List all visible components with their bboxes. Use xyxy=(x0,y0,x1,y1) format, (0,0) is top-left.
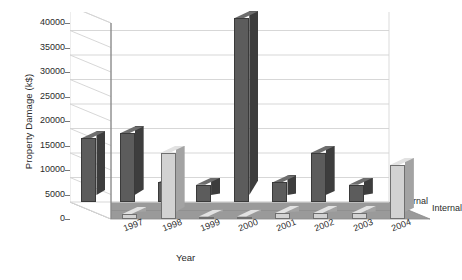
y-axis-tick-mark xyxy=(65,72,70,73)
bar-internal-1999 xyxy=(199,210,214,220)
bar-external-2001 xyxy=(234,11,249,202)
bar-front-face xyxy=(122,214,137,219)
bar-side-face xyxy=(135,126,144,195)
y-axis-tick-mark xyxy=(65,170,70,171)
bar-front-face xyxy=(275,213,290,219)
bar-front-face xyxy=(272,182,287,202)
y-axis-tick-label: 10000 xyxy=(40,165,65,174)
bar-side-face xyxy=(249,11,258,195)
bar-internal-1997 xyxy=(122,207,137,219)
y-axis-tick-mark xyxy=(65,23,70,24)
bar-front-face xyxy=(349,185,364,202)
bar-external-2003 xyxy=(311,146,326,202)
bar-front-face xyxy=(311,153,326,202)
bar-internal-2001 xyxy=(275,206,290,219)
x-axis-title: Year xyxy=(176,252,195,263)
plot-area xyxy=(70,12,430,234)
back-wall xyxy=(70,12,389,202)
y-axis-tick-mark xyxy=(65,48,70,49)
y-axis-tick-labels: 0500010000150002000025000300003500040000 xyxy=(16,0,65,280)
y-axis-tick-label: 25000 xyxy=(40,92,65,101)
bar-external-2004 xyxy=(349,178,364,202)
bar-external-1998 xyxy=(120,126,135,202)
y-axis-tick-mark xyxy=(65,146,70,147)
bar-internal-2003 xyxy=(352,206,367,219)
y-axis-tick-mark xyxy=(65,219,70,220)
y-axis-tick-label: 40000 xyxy=(40,18,65,27)
bar-front-face xyxy=(199,217,214,220)
bar-external-2002 xyxy=(272,175,287,202)
bar-side-face xyxy=(176,146,185,212)
bar-internal-2002 xyxy=(313,206,328,219)
bar-external-1997 xyxy=(81,131,96,202)
bar-side-face xyxy=(96,131,105,195)
bar-side-face xyxy=(405,158,414,212)
bar-external-2000 xyxy=(196,178,211,202)
bar-front-face xyxy=(352,213,367,219)
y-axis-tick-label: 35000 xyxy=(40,43,65,52)
bar-front-face xyxy=(161,153,176,219)
bar-internal-1998 xyxy=(161,146,176,219)
bar-front-face xyxy=(120,133,135,202)
bar-front-face xyxy=(313,213,328,219)
bar-front-face xyxy=(196,185,211,202)
y-axis-tick-label: 15000 xyxy=(40,141,65,150)
series-label-internal: Internal xyxy=(432,203,462,213)
y-axis-tick-mark xyxy=(65,195,70,196)
bar-internal-2004 xyxy=(390,158,405,219)
bar-front-face xyxy=(237,217,252,220)
y-axis-tick-label: 5000 xyxy=(45,190,65,199)
y-axis-tick-mark xyxy=(65,97,70,98)
y-axis-tick-mark xyxy=(65,121,70,122)
bar-internal-2000 xyxy=(237,210,252,220)
y-axis-tick-label: 30000 xyxy=(40,67,65,76)
bar-front-face xyxy=(234,18,249,202)
bar-front-face xyxy=(390,165,405,219)
bar-side-face xyxy=(326,146,335,195)
bar-front-face xyxy=(81,138,96,202)
y-axis-tick-label: 20000 xyxy=(40,116,65,125)
